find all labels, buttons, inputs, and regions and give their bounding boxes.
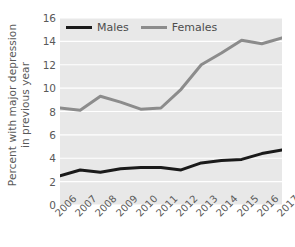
x-tick-label: 2009 (114, 193, 140, 219)
x-tick-label: 2015 (235, 193, 261, 219)
x-tick-label: 2007 (73, 193, 99, 219)
x-tick-label: 2011 (154, 193, 180, 219)
x-tick-label: 2017 (275, 193, 295, 219)
x-tick-label: 2008 (93, 193, 119, 219)
x-tick-label: 2014 (214, 193, 240, 219)
x-axis-tick-labels: 2006200720082009201020112012201320142015… (0, 0, 295, 247)
depression-trend-line-chart: Percent with major depression in previou… (0, 0, 295, 247)
x-tick-label: 2006 (53, 193, 79, 219)
x-tick-label: 2010 (134, 193, 160, 219)
x-tick-label: 2016 (255, 193, 281, 219)
x-tick-label: 2012 (174, 193, 200, 219)
x-tick-label: 2013 (194, 193, 220, 219)
